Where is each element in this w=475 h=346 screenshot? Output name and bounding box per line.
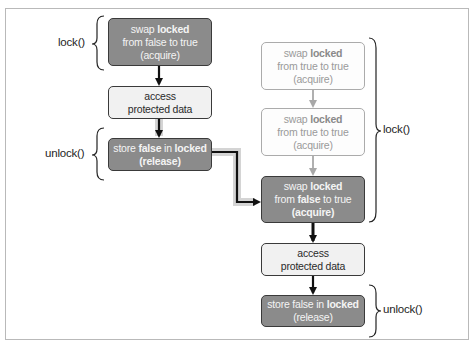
box-text: store [113,142,138,154]
box-text: from true to true [277,60,348,73]
box-text: swap [131,23,157,35]
diagram-frame [5,8,469,340]
right-swap-fail-box-2: swap locked from true to true (acquire) [261,108,365,156]
box-text: protected data [281,260,345,273]
box-text: (acquire) [293,139,333,152]
left-swap-acquire-box: swap locked from false to true (acquire) [108,18,212,66]
box-text-bold: locked [175,142,207,154]
box-text: swap [284,47,310,59]
box-text: to true [320,193,351,205]
box-text: in [161,142,174,154]
box-text: (acquire) [140,49,180,62]
left-unlock-label: unlock() [45,147,84,159]
right-swap-acquire-box: swap locked from false to true (acquire) [261,176,365,223]
box-text: store false in [267,298,326,310]
right-unlock-label: unlock() [383,303,422,315]
box-text-bold: (release) [139,155,180,167]
box-text-bold: false [138,142,161,154]
box-text: (release) [293,311,333,324]
box-text: from false to true [122,36,197,49]
box-text: protected data [128,103,192,116]
box-text: swap [284,113,310,125]
right-store-release-box: store false in locked (release) [261,295,365,327]
box-text-bold: locked [310,47,342,59]
box-text: from true to true [277,126,348,139]
box-text: (acquire) [293,73,333,86]
box-text: access [297,247,328,260]
left-store-release-box: store false in locked (release) [108,138,212,171]
box-text-bold: locked [327,298,359,310]
right-access-box: access protected data [261,243,365,276]
left-lock-label: lock() [58,36,85,48]
box-text-bold: false [297,193,320,205]
box-text-bold: locked [310,180,342,192]
right-swap-fail-box-1: swap locked from true to true (acquire) [261,42,365,90]
box-text: from [275,193,298,205]
right-lock-label: lock() [383,123,410,135]
left-access-box: access protected data [108,86,212,119]
box-text: access [144,90,175,103]
box-text-bold: (acquire) [292,206,335,218]
box-text-bold: locked [157,23,189,35]
box-text-bold: locked [310,113,342,125]
box-text: swap [284,180,310,192]
